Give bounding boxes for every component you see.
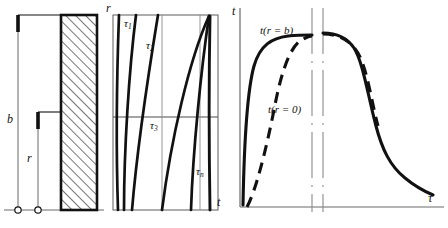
curve-label-tau-2: τ2 — [146, 40, 154, 52]
tau-2-subscript: 2 — [150, 44, 154, 53]
curve-label-surface-temperature: t(r = b) — [260, 25, 293, 36]
curve-label-centre-temperature: t(r = 0) — [268, 104, 301, 115]
axis-label-t: t — [217, 196, 220, 208]
panel-radial-temperature-profiles: r t τ1 τ2 τ3 τn — [105, 0, 230, 228]
r-arrow-head — [36, 112, 40, 129]
label-outer-radius-b: b — [7, 113, 13, 125]
radial-profiles-drawing — [105, 0, 230, 228]
axis-label-r: r — [106, 2, 111, 14]
tau-3-subscript: 3 — [154, 124, 158, 133]
origin-marker-r — [35, 207, 41, 213]
curve-diagonal — [162, 16, 209, 210]
axis-label-t-vertical: t — [232, 5, 235, 17]
curve-label-tau-3: τ3 — [150, 120, 158, 132]
curve-label-tau-1: τ1 — [124, 18, 132, 30]
heat-conduction-figure: b r r t τ1 — [0, 0, 448, 228]
axis-label-tau-horizontal: τ — [428, 192, 432, 204]
tau-1-subscript: 1 — [128, 22, 132, 31]
curve-label-tau-n: τn — [196, 166, 204, 178]
curve-tau-n — [209, 16, 210, 210]
origin-marker-b — [15, 207, 21, 213]
curve-tau-1 — [117, 15, 119, 210]
wall-hatching — [61, 15, 97, 210]
curve-surface-temperature-decay — [323, 33, 433, 195]
tau-n-subscript: n — [200, 170, 204, 179]
panel-temperature-time-history: t τ t(r = b) t(r = 0) — [230, 0, 448, 228]
curve-surface-temperature-rise — [243, 35, 312, 205]
curve-tau-3 — [132, 15, 158, 210]
curve-centre-temperature-decay — [323, 34, 378, 126]
b-arrow-head — [16, 15, 20, 32]
label-inner-radius-r: r — [27, 152, 32, 164]
panel-wall-cross-section: b r — [0, 0, 105, 228]
wall-cross-section-drawing — [0, 0, 105, 228]
